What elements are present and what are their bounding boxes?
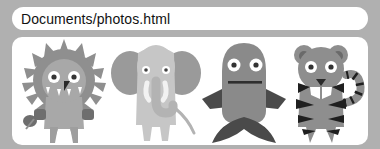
fish-illustration[interactable]: [198, 37, 290, 145]
photo-gallery-card: [12, 37, 368, 145]
photo-gallery: [12, 37, 368, 145]
fish-icon: [198, 37, 290, 145]
tiger-illustration[interactable]: [280, 37, 368, 145]
address-bar[interactable]: Documents/photos.html: [12, 7, 368, 30]
address-bar-text[interactable]: Documents/photos.html: [12, 12, 170, 26]
browser-window: Documents/photos.html: [0, 0, 380, 149]
elephant-icon: [110, 37, 202, 145]
elephant-illustration[interactable]: [110, 37, 202, 145]
tiger-icon: [280, 37, 368, 145]
lion-icon: [16, 37, 112, 145]
lion-illustration[interactable]: [16, 37, 112, 145]
